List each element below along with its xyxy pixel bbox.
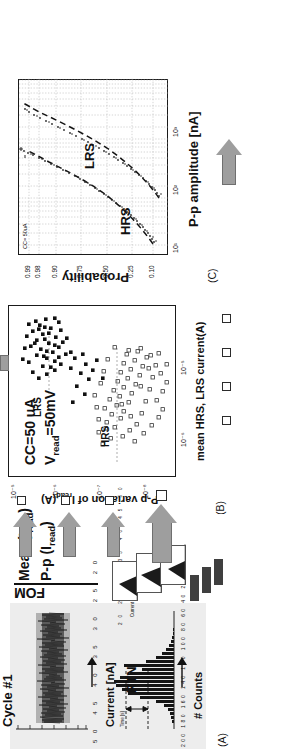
- panel-b-xtick-0: 10⁻⁶: [180, 432, 188, 447]
- panel-b-inflow-marker-3: [222, 314, 231, 323]
- panel-a-output-marker-2: [105, 496, 114, 505]
- panel-a-counts-axis-label: # Counts: [192, 672, 204, 719]
- panel-b-annotation-vread: Vread=50mV: [42, 390, 61, 465]
- panel-c-label-hrs: HRS: [118, 208, 133, 235]
- panel-c-label-lrs: LRS: [82, 143, 97, 169]
- panel-a-trace-to-hist-arrow: [86, 657, 98, 687]
- panel-a-trace-plot: [16, 611, 88, 729]
- panel-c-xtick-2: 10³: [172, 127, 179, 137]
- panel-a: Cycle #1 50 45 40 35 30 25 20 Current [n…: [0, 464, 289, 703]
- panel-a-rtn-label: RTN: [124, 666, 139, 693]
- panel-c-xaxis-label: P-p amplitude [nA]: [186, 111, 201, 227]
- panel-a-time-axis-label: Time [s]: [120, 711, 125, 727]
- panel-a-output-marker-1: [61, 496, 70, 505]
- panel-b-inflow-marker-2: [222, 348, 231, 357]
- panel-b-outflow-stub: [0, 355, 9, 371]
- panel-b: LRS HRS CC=50 uA Vread=50mV 10⁻⁵ 10⁻⁶ 10…: [0, 232, 289, 464]
- panel-a-id: (A): [216, 733, 228, 747]
- panel-b-label-hrs: HRS: [100, 426, 111, 447]
- panel-b-inflow-marker-0: [222, 416, 231, 425]
- panel-a-fom-block: FOM: [14, 585, 45, 601]
- panel-a-mini-trace-thumbs: [186, 541, 232, 603]
- panel-b-xaxis-label: mean HRS, LRS current(A): [194, 322, 206, 461]
- panel-b-lrs-points: [21, 316, 105, 404]
- panel-a-output-marker-3: [156, 490, 167, 501]
- panel-c-xtick-1: 10²: [172, 185, 179, 195]
- panel-a-mini-inset-1: [112, 561, 138, 601]
- panel-c: LRS HRS CC= 50uA 0.99 0.98 0.90 0.75 0.5…: [0, 0, 289, 232]
- panel-a-cycle-label: Cycle #1: [0, 674, 15, 727]
- panel-a-fom-label: FOM: [14, 585, 45, 601]
- panel-a-hist-to-fom-arrow: [176, 657, 188, 687]
- panel-a-fom-divider: [14, 583, 98, 585]
- panel-b-xtick-1: 10⁻⁵: [180, 360, 188, 375]
- panel-b-annotation-cc: CC=50 uA: [22, 398, 38, 465]
- panel-a-fom-pp: P-p (Iread): [38, 521, 57, 581]
- panel-a-content: Cycle #1 50 45 40 35 30 25 20 Current [n…: [0, 514, 289, 753]
- panel-a-output-marker-0: [17, 496, 26, 505]
- panel-b-inflow-marker-1: [222, 382, 231, 391]
- panel-c-top-outliers: [19, 147, 25, 158]
